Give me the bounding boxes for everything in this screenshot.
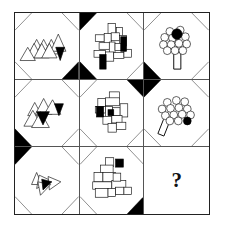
- black-rectangle: [115, 159, 123, 167]
- matrix-cell-row1-col1[interactable]: [15, 13, 80, 80]
- black-rectangle-b: [99, 55, 105, 70]
- matrix-cell-row2-col2[interactable]: [80, 80, 145, 147]
- matrix-cell-row2-col3[interactable]: [144, 80, 209, 147]
- black-circle: [172, 29, 182, 40]
- black-rectangle-a: [120, 37, 126, 52]
- black-rectangle-a: [96, 106, 103, 117]
- matrix-grid: ?: [14, 12, 210, 215]
- matrix-cell-row3-col1[interactable]: [15, 147, 80, 214]
- black-corner-bottom-left: [80, 62, 97, 79]
- rectangle-cluster: [92, 158, 131, 198]
- question-mark: ?: [144, 147, 209, 214]
- matrix-cell-row2-col1[interactable]: [15, 80, 80, 147]
- black-circle: [184, 117, 192, 125]
- matrix-cell-row3-col3-answer[interactable]: ?: [144, 147, 209, 214]
- matrix-cell-row1-col3[interactable]: [144, 13, 209, 80]
- black-corner-bottom-left: [144, 62, 161, 79]
- black-rectangle-b: [108, 110, 114, 116]
- puzzle-root: ?: [0, 0, 225, 227]
- stem: [174, 53, 181, 70]
- matrix-cell-row1-col2[interactable]: [80, 13, 145, 80]
- matrix-cell-row3-col2[interactable]: [80, 147, 145, 214]
